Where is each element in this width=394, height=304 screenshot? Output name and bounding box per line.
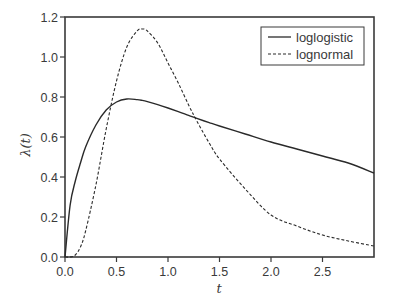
x-tick-label: 0.0	[56, 265, 73, 279]
x-tick-label: 1.5	[211, 265, 228, 279]
y-tick-label: 1.0	[41, 51, 58, 65]
legend-label-loglogistic: loglogistic	[296, 30, 354, 45]
legend-label-lognormal: lognormal	[296, 47, 353, 62]
hazard-chart: 0.00.20.40.60.81.01.2 0.00.51.01.52.02.5…	[0, 0, 394, 304]
series-line-loglogistic	[65, 99, 374, 257]
y-tick-label: 0.2	[41, 211, 58, 225]
x-axis-ticks: 0.00.51.01.52.02.5	[56, 257, 331, 279]
x-tick-label: 2.0	[262, 265, 279, 279]
y-axis-label: λ(t)	[18, 133, 33, 158]
y-tick-label: 0.6	[41, 131, 58, 145]
legend: loglogistic lognormal	[261, 27, 364, 65]
y-tick-label: 1.2	[41, 11, 58, 25]
y-axis-ticks: 0.00.20.40.60.81.01.2	[41, 11, 65, 265]
x-tick-label: 2.5	[314, 265, 331, 279]
x-tick-label: 0.5	[108, 265, 125, 279]
y-tick-label: 0.0	[41, 251, 58, 265]
x-axis-label: t	[216, 281, 222, 296]
y-tick-label: 0.4	[41, 171, 58, 185]
y-tick-label: 0.8	[41, 91, 58, 105]
x-tick-label: 1.0	[159, 265, 176, 279]
